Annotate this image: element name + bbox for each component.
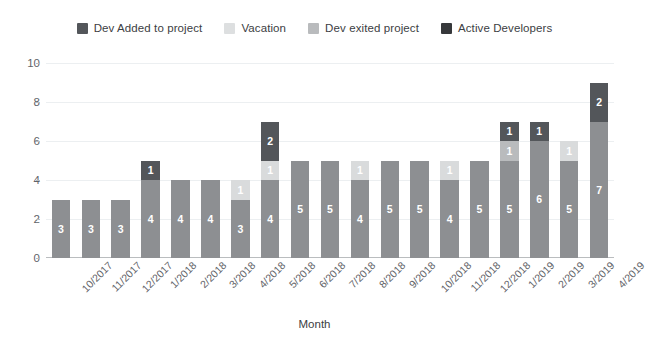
- bar-12-2018[interactable]: 5: [470, 161, 489, 259]
- x-tick-label-2-2018: 2/2018: [197, 259, 228, 290]
- bar-segment-active-developers: 4: [141, 180, 160, 258]
- x-tick-label-12-2018: 12/2018: [498, 259, 533, 294]
- bar-segment-active-developers: 3: [111, 200, 130, 259]
- bar-series-group: 333414431412554155415511615172: [46, 63, 614, 258]
- x-tick-label-11-2017: 11/2017: [109, 259, 144, 294]
- bar-segment-vacation: 1: [560, 141, 579, 161]
- x-tick-label-12-2017: 12/2017: [139, 259, 174, 294]
- bar-segment-dev-added-to-project: 1: [141, 161, 160, 181]
- x-tick-label-4-2019: 4/2019: [615, 259, 646, 290]
- x-tick-label-7-2018: 7/2018: [346, 259, 377, 290]
- legend-swatch-active-developers: [441, 23, 452, 34]
- legend-swatch-dev-added: [77, 23, 88, 34]
- bar-10-2018[interactable]: 5: [410, 161, 429, 259]
- legend-swatch-dev-exited: [308, 23, 319, 34]
- bar-segment-dev-added-to-project: 2: [590, 83, 609, 122]
- bar-segment-active-developers: 4: [261, 180, 280, 258]
- x-tick-label-5-2018: 5/2018: [287, 259, 318, 290]
- y-tick-mark-10: [36, 63, 40, 64]
- x-axis-title: Month: [0, 318, 629, 330]
- bar-segment-dev-added-to-project: 2: [261, 122, 280, 161]
- y-tick-mark-8: [36, 102, 40, 103]
- bar-7-2018[interactable]: 5: [321, 161, 340, 259]
- bar-segment-active-developers: 3: [231, 200, 250, 259]
- bar-12-2017[interactable]: 3: [111, 200, 130, 259]
- x-tick-label-10-2018: 10/2018: [438, 259, 473, 294]
- y-axis: 0246810: [0, 63, 40, 259]
- legend-item-vacation[interactable]: Vacation: [224, 22, 286, 34]
- bar-segment-active-developers: 5: [560, 161, 579, 259]
- legend-label-dev-exited: Dev exited project: [325, 22, 419, 34]
- bar-8-2018[interactable]: 41: [351, 161, 370, 259]
- x-tick-label-9-2018: 9/2018: [406, 259, 437, 290]
- bar-segment-dev-added-to-project: 1: [500, 122, 519, 142]
- y-tick-mark-2: [36, 219, 40, 220]
- bar-1-2019[interactable]: 511: [500, 122, 519, 259]
- bar-segment-dev-added-to-project: 1: [530, 122, 549, 142]
- bar-segment-active-developers: 5: [381, 161, 400, 259]
- plot-area: 333414431412554155415511615172: [46, 63, 614, 258]
- x-tick-label-3-2018: 3/2018: [227, 259, 258, 290]
- bar-2-2019[interactable]: 61: [530, 122, 549, 259]
- y-tick-mark-4: [36, 180, 40, 181]
- bar-3-2019[interactable]: 51: [560, 141, 579, 258]
- legend-label-active-developers: Active Developers: [458, 22, 552, 34]
- legend-label-dev-added: Dev Added to project: [94, 22, 203, 34]
- x-tick-label-2-2019: 2/2019: [556, 259, 587, 290]
- x-tick-label-1-2018: 1/2018: [167, 259, 198, 290]
- x-tick-label-3-2019: 3/2019: [586, 259, 617, 290]
- bar-segment-vacation: 1: [231, 180, 250, 200]
- bar-segment-vacation: 1: [261, 161, 280, 181]
- bar-4-2019[interactable]: 72: [590, 83, 609, 259]
- x-tick-label-4-2018: 4/2018: [257, 259, 288, 290]
- y-tick-mark-6: [36, 141, 40, 142]
- y-tick-mark-0: [36, 258, 40, 259]
- bar-segment-active-developers: 5: [500, 161, 519, 259]
- bar-segment-active-developers: 5: [470, 161, 489, 259]
- bar-5-2018[interactable]: 412: [261, 122, 280, 259]
- bar-segment-vacation: 1: [351, 161, 370, 181]
- bar-9-2018[interactable]: 5: [381, 161, 400, 259]
- bar-11-2017[interactable]: 3: [82, 200, 101, 259]
- bar-segment-dev-exited-project: 1: [500, 141, 519, 161]
- bar-3-2018[interactable]: 4: [201, 180, 220, 258]
- bar-segment-active-developers: 5: [321, 161, 340, 259]
- legend-item-dev-added[interactable]: Dev Added to project: [77, 22, 203, 34]
- legend-item-dev-exited[interactable]: Dev exited project: [308, 22, 419, 34]
- x-tick-label-11-2018: 11/2018: [467, 259, 502, 294]
- x-tick-label-1-2019: 1/2019: [526, 259, 557, 290]
- bar-segment-vacation: 1: [440, 161, 459, 181]
- bar-2-2018[interactable]: 4: [171, 180, 190, 258]
- bar-segment-active-developers: 5: [291, 161, 310, 259]
- bar-segment-active-developers: 4: [351, 180, 370, 258]
- bar-segment-active-developers: 4: [201, 180, 220, 258]
- bar-4-2018[interactable]: 31: [231, 180, 250, 258]
- bar-11-2018[interactable]: 41: [440, 161, 459, 259]
- bar-segment-active-developers: 5: [410, 161, 429, 259]
- x-tick-label-10-2017: 10/2017: [79, 259, 114, 294]
- bar-segment-active-developers: 6: [530, 141, 549, 258]
- bar-segment-active-developers: 3: [82, 200, 101, 259]
- bar-segment-active-developers: 7: [590, 122, 609, 259]
- x-axis-tick-labels: 10/201711/201712/20171/20182/20183/20184…: [46, 259, 614, 307]
- x-tick-label-8-2018: 8/2018: [376, 259, 407, 290]
- chart-legend: Dev Added to project Vacation Dev exited…: [0, 22, 629, 34]
- x-tick-label-6-2018: 6/2018: [317, 259, 348, 290]
- legend-item-active-developers[interactable]: Active Developers: [441, 22, 552, 34]
- legend-label-vacation: Vacation: [241, 22, 286, 34]
- bar-segment-active-developers: 4: [171, 180, 190, 258]
- bar-segment-active-developers: 3: [52, 200, 71, 259]
- bar-segment-active-developers: 4: [440, 180, 459, 258]
- bar-10-2017[interactable]: 3: [52, 200, 71, 259]
- bar-6-2018[interactable]: 5: [291, 161, 310, 259]
- bar-1-2018[interactable]: 41: [141, 161, 160, 259]
- legend-swatch-vacation: [224, 23, 235, 34]
